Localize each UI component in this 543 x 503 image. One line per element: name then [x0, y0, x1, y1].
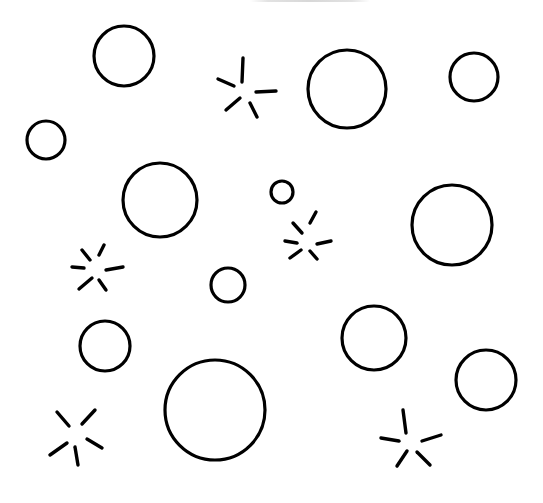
circle-5-shape [123, 163, 197, 237]
sparkle-stroke [285, 241, 297, 243]
circle-8-shape [211, 268, 245, 302]
sparkle-stroke [87, 439, 102, 448]
sparkle-stroke [403, 410, 406, 433]
sparkle-1-icon [218, 58, 276, 117]
circle-9-shape [342, 306, 406, 370]
circle-3-shape [450, 53, 498, 101]
circle-12-shape [456, 350, 516, 410]
sparkle-stroke [75, 447, 78, 465]
sparkle-stroke [310, 212, 316, 223]
circle-2-shape [308, 50, 386, 128]
circle-7-shape [412, 185, 492, 265]
sparkle-stroke [106, 267, 123, 270]
sparkle-stroke [250, 103, 257, 117]
sparkle-stroke [57, 412, 69, 426]
sparkles-group [50, 58, 441, 466]
sparkle-stroke [99, 280, 106, 290]
sparkle-stroke [417, 452, 430, 465]
sparkle-2-icon [285, 212, 331, 259]
sparkle-stroke [218, 79, 234, 86]
sparkle-stroke [226, 98, 240, 110]
circle-4-shape [27, 121, 65, 159]
sparkle-stroke [317, 241, 331, 244]
sparkle-stroke [99, 245, 104, 255]
circle-1-shape [94, 26, 154, 86]
sparkle-stroke [72, 267, 84, 268]
sparkle-5-icon [381, 410, 441, 466]
sparkle-stroke [82, 250, 90, 260]
circle-6-shape [271, 181, 293, 203]
sparkle-stroke [290, 250, 301, 258]
sparkle-stroke [50, 443, 67, 455]
illustration-canvas [0, 0, 543, 503]
sparkle-3-icon [72, 245, 123, 290]
sparkle-stroke [242, 58, 243, 82]
sparkle-stroke [82, 410, 95, 424]
sparkle-stroke [397, 451, 407, 466]
sparkle-stroke [381, 438, 399, 441]
sparkle-stroke [293, 223, 302, 233]
sparkle-4-icon [50, 410, 102, 465]
circle-10-shape [80, 321, 130, 371]
sparkle-stroke [422, 435, 441, 441]
sparkle-stroke [79, 278, 92, 289]
sparkle-stroke [256, 91, 276, 92]
sparkle-stroke [310, 251, 317, 259]
circle-11-shape [165, 360, 265, 460]
